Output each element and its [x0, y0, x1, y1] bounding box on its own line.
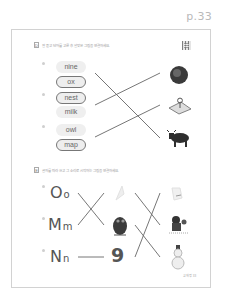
- faint-milk-picture[interactable]: [168, 184, 186, 202]
- letter-pair-n: Nn: [50, 247, 69, 266]
- item-bullet: [42, 249, 45, 252]
- instruction-text: 글자를 따라 쓰고 그 소리로 시작하는 그림을 연결하세요.: [42, 168, 119, 173]
- snowman-picture[interactable]: [170, 244, 186, 270]
- section-e-badge: E: [34, 167, 39, 173]
- letter-pair-o: Oo: [50, 183, 70, 202]
- footer-label: 교재명 33: [183, 274, 196, 278]
- item-bullet: [42, 217, 45, 220]
- mom-and-baby-picture[interactable]: [167, 214, 191, 236]
- faint-picture[interactable]: [112, 184, 128, 202]
- section-e-instruction: E 글자를 따라 쓰고 그 소리로 시작하는 그림을 연결하세요.: [34, 167, 119, 173]
- number-nine[interactable]: 9: [111, 244, 124, 266]
- letter-pair-m: Mm: [48, 215, 73, 234]
- item-bullet: [42, 185, 45, 188]
- owl-picture[interactable]: [110, 213, 130, 237]
